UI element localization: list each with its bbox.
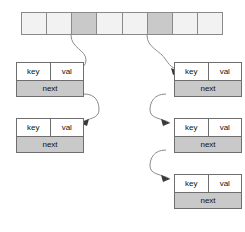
arrow-right-node-1-to-2 (150, 94, 170, 123)
arrowhead-right-node-3 (161, 175, 170, 182)
bucket-array (21, 12, 223, 35)
arrowhead-right-node-2 (161, 119, 170, 126)
node-left-1-key: key (17, 63, 51, 80)
node-left-2-next: next (17, 136, 83, 152)
node-left-2-val: val (51, 119, 84, 136)
node-right-2[interactable]: key val next (174, 118, 242, 153)
node-right-1[interactable]: key val next (174, 62, 242, 97)
bucket-cell-6[interactable] (173, 13, 198, 34)
node-right-2-val: val (209, 119, 242, 136)
bucket-cell-4[interactable] (123, 13, 148, 34)
bucket-cell-3[interactable] (97, 13, 122, 34)
node-right-3-top: key val (175, 175, 241, 192)
node-right-2-key: key (175, 119, 209, 136)
arrow-right-node-2-to-3 (150, 150, 170, 179)
node-right-1-top: key val (175, 63, 241, 80)
node-right-3[interactable]: key val next (174, 174, 242, 209)
diagram-canvas: key val next key val next key val next k… (0, 0, 245, 232)
node-right-1-key: key (175, 63, 209, 80)
node-right-3-val: val (209, 175, 242, 192)
node-left-1-val: val (51, 63, 84, 80)
bucket-cell-1[interactable] (47, 13, 72, 34)
node-left-2[interactable]: key val next (16, 118, 84, 153)
node-right-1-next: next (175, 80, 241, 96)
node-left-2-top: key val (17, 119, 83, 136)
node-left-1[interactable]: key val next (16, 62, 84, 97)
bucket-cell-5[interactable] (148, 13, 173, 34)
bucket-cell-7[interactable] (198, 13, 222, 34)
node-right-3-key: key (175, 175, 209, 192)
bucket-cell-2[interactable] (72, 13, 97, 34)
node-left-1-top: key val (17, 63, 83, 80)
node-left-1-next: next (17, 80, 83, 96)
node-right-3-next: next (175, 192, 241, 208)
node-right-2-next: next (175, 136, 241, 152)
node-right-2-top: key val (175, 119, 241, 136)
bucket-cell-0[interactable] (22, 13, 47, 34)
node-right-1-val: val (209, 63, 242, 80)
node-left-2-key: key (17, 119, 51, 136)
